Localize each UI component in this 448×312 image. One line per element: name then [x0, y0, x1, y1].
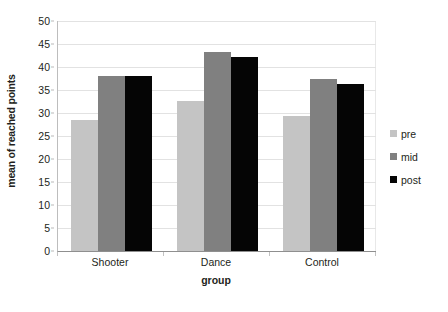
y-axis-tick-label: 25 [38, 130, 50, 142]
legend: premidpost [390, 122, 448, 191]
bar-dance-post[interactable] [231, 57, 258, 251]
x-axis-tick-label-shooter: Shooter [92, 256, 129, 268]
x-axis-tick-label-dance: Dance [201, 256, 231, 268]
x-axis-tick-mark [269, 252, 270, 256]
bar-shooter-pre[interactable] [71, 120, 98, 251]
y-axis-tick-label: 20 [38, 153, 50, 165]
y-axis-tick-label: 10 [38, 199, 50, 211]
legend-swatch-post [390, 176, 397, 183]
bar-group-bars [177, 21, 258, 251]
bar-control-pre[interactable] [283, 116, 310, 251]
y-axis-tick-mark [51, 159, 54, 160]
y-axis-tick-mark [51, 67, 54, 68]
y-axis-title: mean of reached points [5, 74, 17, 187]
x-axis-tick-label-control: Control [305, 256, 339, 268]
bar-group-bars [283, 21, 364, 251]
bar-dance-pre[interactable] [177, 101, 204, 251]
y-axis-tick-label: 15 [38, 176, 50, 188]
x-axis-tick-mark [375, 252, 376, 256]
y-axis-tick-label: 30 [38, 107, 50, 119]
legend-item-pre[interactable]: pre [390, 122, 448, 145]
x-axis-tick-mark [57, 252, 58, 256]
y-axis-tick-mark [51, 228, 54, 229]
bar-group-shooter [71, 21, 152, 251]
y-axis-tick-mark [51, 182, 54, 183]
y-axis-tick-label: 5 [44, 222, 50, 234]
y-axis-tick-labels: 05101520253035404550 [22, 21, 54, 251]
x-axis-title: group [57, 274, 375, 286]
bar-group-bars [71, 21, 152, 251]
legend-item-post[interactable]: post [390, 168, 448, 191]
legend-item-mid[interactable]: mid [390, 145, 448, 168]
y-axis-tick-mark [51, 44, 54, 45]
legend-label-pre: pre [401, 128, 416, 140]
y-axis-tick-mark [51, 90, 54, 91]
bar-shooter-post[interactable] [125, 76, 152, 251]
y-axis-tick-mark [51, 251, 54, 252]
legend-label-post: post [401, 174, 421, 186]
y-axis-tick-mark [51, 113, 54, 114]
bar-control-mid[interactable] [310, 79, 337, 251]
y-axis-tick-label: 0 [44, 245, 50, 257]
bar-group-control [283, 21, 364, 251]
legend-swatch-mid [390, 153, 397, 160]
bar-group-dance [177, 21, 258, 251]
y-axis-title-container: mean of reached points [0, 0, 22, 262]
legend-label-mid: mid [401, 151, 418, 163]
bar-chart-figure: mean of reached points 05101520253035404… [0, 0, 448, 312]
y-axis-tick-mark [51, 21, 54, 22]
y-axis-tick-label: 40 [38, 61, 50, 73]
bar-dance-mid[interactable] [204, 52, 231, 251]
y-axis-tick-label: 45 [38, 38, 50, 50]
y-axis-tick-label: 35 [38, 84, 50, 96]
y-axis-tick-mark [51, 136, 54, 137]
y-axis-tick-label: 50 [38, 15, 50, 27]
y-axis-tick-mark [51, 205, 54, 206]
plot-area [57, 21, 376, 252]
legend-swatch-pre [390, 130, 397, 137]
bar-control-post[interactable] [337, 84, 364, 251]
x-axis-tick-mark [163, 252, 164, 256]
bar-shooter-mid[interactable] [98, 76, 125, 251]
